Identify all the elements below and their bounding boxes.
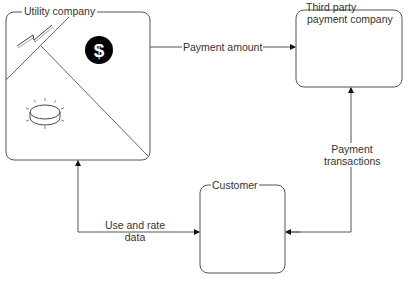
use-and-rate-data-line2: data — [100, 231, 170, 243]
payment-amount-label: Payment amount — [182, 41, 263, 53]
utility-company-label: Utility company — [22, 5, 97, 17]
use-and-rate-data-label: Use and rate data — [100, 219, 170, 243]
customer-node[interactable] — [200, 185, 285, 273]
use-and-rate-data-line1: Use and rate — [105, 219, 165, 231]
third-party-label-line1: Third party — [306, 1, 356, 13]
svg-text:$: $ — [94, 40, 105, 61]
customer-label: Customer — [211, 179, 259, 191]
payment-transactions-line2: transactions — [324, 155, 380, 167]
dollar-icon: $ — [85, 36, 113, 64]
payment-transactions-label: Payment transactions — [324, 143, 380, 167]
utility-company-node[interactable] — [6, 12, 150, 160]
payment-transactions-line1: Payment — [324, 143, 380, 155]
third-party-label-line2: payment company — [306, 13, 394, 25]
